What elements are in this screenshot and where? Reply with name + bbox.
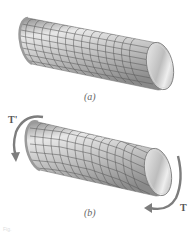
figure-caption: Fig. xyxy=(3,226,11,232)
torque-label-right: T xyxy=(180,202,187,213)
figure-b-label: (b) xyxy=(84,207,96,218)
figure-a-label: (a) xyxy=(84,91,96,102)
torque-label-left: T' xyxy=(8,114,17,125)
figure-b: T' T (b) xyxy=(0,110,191,234)
figure-a: (a) xyxy=(0,0,191,110)
